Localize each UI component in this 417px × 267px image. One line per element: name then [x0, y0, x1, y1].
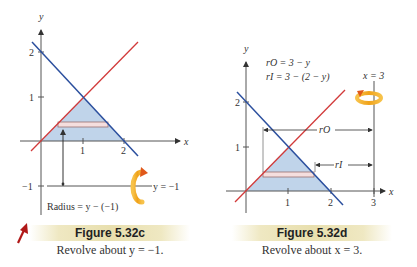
inner-radius-formula: rI = 3 − (2 − y)	[266, 71, 330, 83]
radius-label: Radius = y − (−1)	[47, 201, 118, 213]
x-axis-label: x	[183, 136, 189, 147]
y-tick-2: 2	[29, 47, 34, 58]
y-tick-neg1: −1	[22, 181, 33, 192]
y-tick-1: 1	[29, 92, 34, 103]
x-tick-3: 3	[371, 197, 376, 208]
shaded-region	[41, 97, 124, 141]
y-axis-label: y	[38, 11, 44, 22]
x-tick-2: 2	[328, 197, 333, 208]
figure-caption-right: Revolve about x = 3.	[232, 243, 392, 258]
x-tick-1: 1	[285, 197, 290, 208]
figure-title-right: Figure 5.32d	[232, 226, 392, 240]
rotation-arrow-icon	[133, 167, 148, 202]
axis-of-revolution-label: y = −1	[153, 181, 179, 192]
rotation-ring-icon	[357, 90, 381, 103]
outer-radius-formula: rO = 3 − y	[266, 57, 311, 68]
y-tick-2: 2	[235, 97, 240, 108]
figure-caption-left: Revolve about y = −1.	[30, 243, 190, 258]
representative-strip	[263, 172, 314, 177]
pointer-arrow-icon	[18, 223, 28, 243]
representative-strip	[58, 122, 108, 127]
figure-title-left: Figure 5.32c	[30, 226, 190, 240]
axis-of-revolution-label: x = 3	[362, 70, 384, 81]
right-graph: y x 1 2 3 1 2 x = 3 rO = 3 − y rI = 3 − …	[226, 43, 394, 213]
y-tick-1: 1	[235, 142, 240, 153]
inner-radius-label: rI	[335, 159, 343, 170]
x-axis-label: x	[388, 186, 394, 197]
outer-radius-label: rO	[319, 124, 330, 135]
x-tick-2: 2	[121, 145, 126, 156]
left-graph: y x 1 2 1 2 −1 y = −1 Radius = y − (−1)	[20, 11, 189, 215]
y-axis-label: y	[243, 43, 249, 54]
shaded-region	[246, 147, 331, 191]
x-tick-1: 1	[80, 145, 85, 156]
